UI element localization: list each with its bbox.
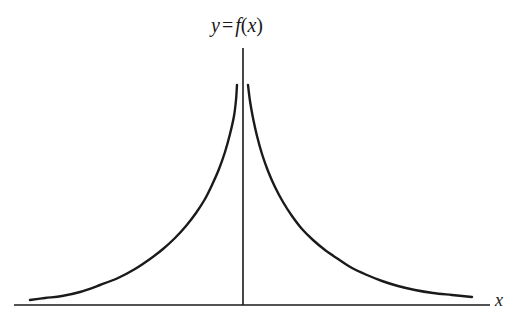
function-graph-figure: y=f(x) x [0, 0, 516, 327]
x-axis-label: x [495, 291, 503, 309]
curve-right-branch [248, 85, 472, 297]
curve-left-branch [30, 85, 237, 300]
curve-label-close-paren: ) [256, 14, 263, 36]
plot-canvas [0, 0, 516, 327]
curve-equation-label: y=f(x) [211, 15, 263, 35]
curve-label-y: y [211, 14, 220, 36]
curve-label-equals: = [222, 14, 233, 36]
curve-label-x: x [247, 14, 256, 36]
